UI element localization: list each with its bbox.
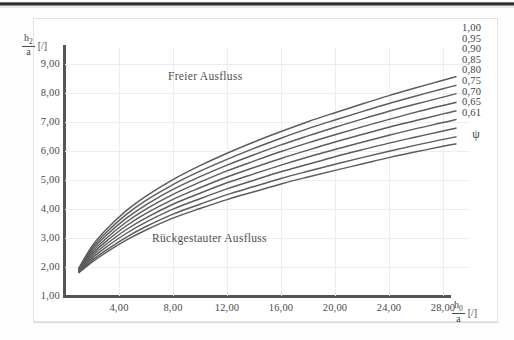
scanned-page: h2 a [/] h0 a [/] 1,002,003,004,005,006,…: [0, 0, 514, 340]
y-tick-label: 5,00: [14, 174, 60, 185]
x-tick-label: 16,00: [255, 302, 307, 313]
legend-item: 0,61: [462, 108, 502, 119]
y-tick-label: 6,00: [14, 145, 60, 156]
legend-items: 1,000,950,900,850,800,750,700,650,61: [462, 23, 502, 118]
curve-psi-0-90: [79, 94, 457, 270]
figure-border-shadow: [33, 322, 499, 323]
legend-item: 0,75: [462, 76, 502, 87]
plot-area: [65, 47, 470, 296]
legend: 1,000,950,900,850,800,750,700,650,61 ψ: [462, 23, 502, 142]
x-tick-label: 12,00: [201, 302, 253, 313]
page-top-rule-shadow: [0, 6, 514, 8]
annotation-submerged-outflow: Rückgestauter Ausfluss: [152, 232, 267, 244]
curve-psi-0-95: [79, 85, 457, 269]
curve-psi-0-85: [79, 102, 457, 270]
x-tick-label: 28,00: [417, 302, 469, 313]
curve-psi-0-75: [79, 119, 457, 271]
x-tick-label: 8,00: [147, 302, 199, 313]
curve-group: [65, 47, 470, 296]
legend-item: 1,00: [462, 23, 502, 34]
y-tick-label: 4,00: [14, 203, 60, 214]
y-axis-tick-labels: 1,002,003,004,005,006,007,008,009,00: [8, 0, 60, 340]
y-tick-label: 9,00: [14, 58, 60, 69]
curve-psi-0-65: [79, 137, 457, 273]
x-axis-denominator: a: [452, 313, 465, 325]
y-tick-label: 1,00: [14, 290, 60, 301]
annotation-free-outflow: Freier Ausfluss: [168, 70, 242, 82]
y-tick-label: 8,00: [14, 87, 60, 98]
x-axis-unit: [/]: [468, 307, 477, 318]
x-tick-label: 20,00: [309, 302, 361, 313]
curve-psi-1-00: [79, 77, 457, 269]
y-tick-label: 3,00: [14, 232, 60, 243]
curve-psi-0-80: [79, 111, 457, 271]
legend-symbol-psi: ψ: [462, 127, 490, 142]
y-tick-label: 2,00: [14, 261, 60, 272]
x-tick-label: 24,00: [363, 302, 415, 313]
x-tick-label: 4,00: [93, 302, 145, 313]
y-tick-label: 7,00: [14, 116, 60, 127]
